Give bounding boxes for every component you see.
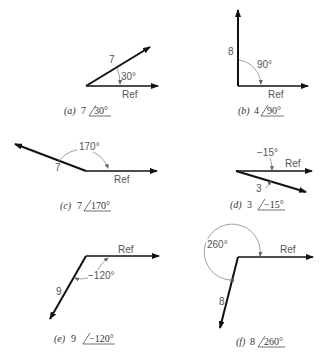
panel-c: 7 170° Ref (c) 7 170° (15, 141, 157, 212)
magnitude-label: 7 (109, 54, 115, 65)
ref-label: Ref (280, 244, 296, 255)
svg-text:(e): (e) (54, 333, 66, 345)
phasor-vector-arrow (220, 257, 238, 328)
ref-label: Ref (114, 174, 130, 185)
caption-magnitude: 9 (71, 333, 76, 344)
caption-magnitude: 4 (254, 105, 259, 116)
magnitude-label: 7 (55, 162, 61, 173)
angle-arc-lower (266, 181, 271, 188)
angle-arc (204, 224, 260, 280)
caption-angle: −15° (264, 199, 284, 210)
angle-label: 170° (79, 141, 100, 152)
svg-text:(a): (a) (64, 105, 76, 117)
panel-f: 260° Ref 8 (f) 8 260° (204, 224, 313, 348)
angle-arc-right (98, 258, 108, 270)
magnitude-label: 9 (56, 286, 62, 297)
caption-d: (d) 3 −15° (230, 199, 285, 211)
svg-text:(f): (f) (236, 336, 246, 348)
phasor-vector-arrow (86, 47, 150, 86)
magnitude-label: 8 (228, 46, 234, 57)
panel-a: 7 30° Ref (a) 7 30° (64, 47, 158, 117)
caption-a: (a) 7 30° (64, 105, 111, 117)
svg-text:(d): (d) (230, 199, 242, 211)
angle-arc (59, 149, 108, 168)
magnitude-label: 3 (256, 183, 262, 194)
phasor-vector-arrow (15, 144, 86, 171)
angle-label: 260° (207, 239, 228, 250)
caption-magnitude: 3 (247, 199, 252, 210)
angle-label: 30° (121, 71, 136, 82)
ref-label: Ref (268, 89, 284, 100)
caption-c: (c) 7 170° (60, 200, 111, 212)
caption-angle: 30° (94, 105, 108, 116)
panel-d: −15° Ref 3 (d) 3 −15° (230, 147, 312, 211)
magnitude-label: 8 (219, 296, 225, 307)
caption-angle: 170° (91, 200, 110, 211)
panel-b: 8 90° Ref (b) 4 90° (228, 10, 308, 117)
caption-angle: 260° (264, 336, 283, 347)
caption-b: (b) 4 90° (238, 105, 284, 117)
panel-e: −120° Ref 9 (e) 9 −120° (50, 244, 159, 345)
caption-e: (e) 9 −120° (54, 333, 115, 345)
angle-arc (117, 68, 120, 84)
phasor-diagram-figure: 7 30° Ref (a) 7 30° 8 90° Ref (b) 4 90° … (0, 0, 322, 353)
angle-label: 90° (257, 59, 272, 70)
ref-label: Ref (285, 158, 301, 169)
caption-magnitude: 7 (81, 105, 86, 116)
svg-text:(b): (b) (238, 105, 250, 117)
caption-f: (f) 8 260° (236, 336, 285, 348)
ref-label: Ref (118, 244, 134, 255)
angle-arc-upper (270, 158, 272, 170)
caption-magnitude: 7 (77, 200, 82, 211)
svg-text:(c): (c) (60, 200, 72, 212)
angle-label: −120° (88, 270, 115, 281)
caption-magnitude: 8 (250, 336, 255, 347)
caption-angle: 90° (267, 105, 281, 116)
caption-angle: −120° (89, 333, 114, 344)
ref-label: Ref (122, 89, 138, 100)
angle-label: −15° (257, 147, 278, 158)
angle-arc-left (75, 278, 88, 279)
